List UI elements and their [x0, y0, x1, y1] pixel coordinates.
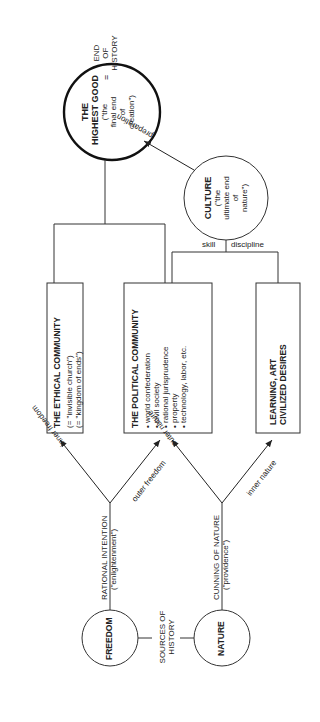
skill-label: skill [202, 240, 215, 249]
sources-of-history-label: SOURCES OF HISTORY [158, 610, 176, 664]
rational-intention-label: RATIONAL INTENTION ("enlightenment") [100, 516, 118, 600]
political-community-label: THE POLITICAL COMMUNITY • world confeder… [130, 288, 188, 428]
ethical-community-label: THE ETHICAL COMMUNITY (= "invisible chur… [52, 288, 83, 428]
freedom-label: FREEDOM [104, 618, 114, 661]
end-of-history-label: = END OF HISTORY [92, 40, 119, 80]
preparation-arrow [144, 141, 194, 170]
cunning-of-nature-label: CUNNING OF NATURE ("providence") [212, 515, 230, 600]
highest-good-label: THE HIGHEST GOOD ("the final end of crea… [80, 79, 136, 145]
nature-label: NATURE [216, 621, 226, 656]
culture-label: CULTURE ("the ultimate end of nature") [203, 168, 249, 228]
learning-label: LEARNING, ART CIVILIZED DESIRES [268, 285, 288, 425]
discipline-label: discipline [231, 240, 264, 249]
